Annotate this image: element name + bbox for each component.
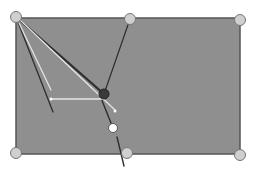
light-end-dot: [114, 110, 117, 113]
vertex-handle-bottom-right[interactable]: [235, 150, 246, 161]
white-point[interactable]: [109, 124, 118, 133]
geometry-canvas[interactable]: [0, 0, 259, 179]
vector-tail-dot: [50, 98, 53, 101]
dark-point[interactable]: [99, 89, 109, 99]
vertex-handle-top-left[interactable]: [11, 12, 22, 23]
vertex-handle-bottom-mid[interactable]: [122, 148, 133, 159]
vertex-handle-bottom-left[interactable]: [11, 148, 22, 159]
vertex-handle-top-mid[interactable]: [125, 14, 136, 25]
vertex-handle-top-right[interactable]: [235, 15, 246, 26]
